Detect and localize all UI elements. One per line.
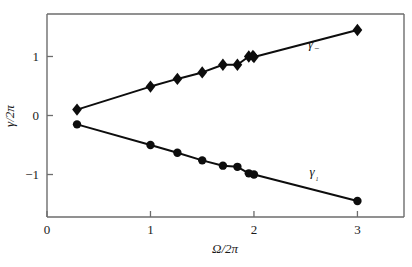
axes-frame xyxy=(47,14,404,217)
data-point-diamond xyxy=(353,24,363,36)
data-point-diamond xyxy=(218,59,228,71)
series-label-subscript: ₁ xyxy=(315,171,318,181)
x-tick-label: 2 xyxy=(251,222,258,237)
y-tick-label: −1 xyxy=(25,167,39,182)
series-label-gamma-one: γ₁ xyxy=(310,164,319,182)
x-axis-title: Ω/2π xyxy=(212,241,239,256)
data-point-circle xyxy=(233,163,241,171)
y-tick-label: 1 xyxy=(33,49,40,64)
data-point-circle xyxy=(250,170,258,178)
data-point-diamond xyxy=(173,73,183,85)
x-axis-ticks: 0123 xyxy=(44,211,361,237)
data-point-diamond xyxy=(233,59,243,71)
data-point-circle xyxy=(219,161,227,169)
y-axis-title: γ/2π xyxy=(2,105,17,127)
data-point-circle xyxy=(173,148,181,156)
data-point-circle xyxy=(73,120,81,128)
y-tick-label: 0 xyxy=(33,108,40,123)
data-point-diamond xyxy=(197,66,207,78)
series-line xyxy=(77,124,357,201)
data-series-lower xyxy=(73,120,362,205)
series-line xyxy=(77,30,357,110)
series-label-subscript: − xyxy=(314,43,320,53)
data-point-circle xyxy=(353,197,361,205)
figure-container: 0123 10−1 γ−γ₁ Ω/2π γ/2π xyxy=(0,0,412,267)
x-tick-label: 0 xyxy=(44,222,51,237)
plot-canvas: 0123 10−1 γ−γ₁ Ω/2π γ/2π xyxy=(0,0,412,267)
data-series-upper xyxy=(72,24,362,116)
data-point-circle xyxy=(198,156,206,164)
data-point-circle xyxy=(146,141,154,149)
data-point-diamond xyxy=(72,103,82,115)
x-tick-label: 1 xyxy=(147,222,154,237)
x-tick-label: 3 xyxy=(354,222,361,237)
series-annotations: γ−γ₁ xyxy=(308,36,320,182)
data-point-diamond xyxy=(146,80,156,92)
series-label-gamma-minus: γ− xyxy=(308,36,320,54)
y-axis-ticks: 10−1 xyxy=(25,49,53,182)
